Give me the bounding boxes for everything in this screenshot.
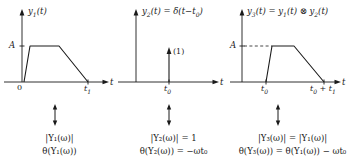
figure-column-3: y3(t) = y1(t) ⊗ y2(t) A t0 t0 + t1 t |Y₃…: [228, 0, 347, 168]
x-axis-arrowhead: [103, 80, 110, 85]
y-axis-arrowhead: [134, 9, 139, 16]
phase-equation-2: θ(Y₂(ω)) = −ωt₀: [114, 147, 233, 156]
plot-y1: y1(t) A 0 t1 t: [0, 0, 119, 100]
connector-arrow-2-svg: [114, 104, 233, 126]
x-tick-label-t0-plus-t1: t0 + t1: [310, 84, 336, 95]
y-axis-tick-label-A: A: [9, 40, 15, 50]
plot-y3: y3(t) = y1(t) ⊗ y2(t) A t0 t0 + t1 t: [228, 0, 347, 100]
magnitude-equation-2-text: |Y₂(ω)| = 1: [150, 133, 196, 143]
connector-arrow-2: [114, 104, 233, 126]
phase-equation-1-text: θ(Y₁(ω)): [42, 146, 76, 156]
figure-column-2: y2(t) = δ(t−t0) (1) t0 t |Y₂(ω)| = 1 θ(Y…: [114, 0, 233, 168]
magnitude-equation-3: |Y₃(ω)| = |Y₁(ω)|: [228, 126, 357, 145]
waveform-trapezoid-shifted: [266, 46, 324, 82]
figure-column-1: y1(t) A 0 t1 t |Y₁(ω)| θ(Y₁(ω)): [0, 0, 119, 168]
phase-equation-3-text: θ(Y₃(ω)) = θ(Y₁(ω)) − ωt₀: [239, 146, 346, 156]
connector-arrow-1: [0, 104, 119, 126]
x-tick-label-t1: t1: [84, 84, 91, 95]
y-axis-tick-label-A: A: [230, 40, 236, 50]
magnitude-equation-1-text: |Y₁(ω)|: [45, 133, 73, 143]
connector-arrow-3: [228, 104, 347, 126]
x-axis-label: t: [342, 77, 345, 87]
connector-arrow-3-svg: [228, 104, 347, 126]
waveform-trapezoid: [24, 46, 88, 82]
figure-canvas: y1(t) A 0 t1 t |Y₁(ω)| θ(Y₁(ω)): [0, 0, 357, 168]
y-axis-arrowhead: [240, 9, 245, 16]
plot-y3-title: y3(t) = y1(t) ⊗ y2(t): [247, 6, 328, 18]
magnitude-equation-3-text: |Y₃(ω)| = |Y₁(ω)|: [258, 133, 327, 143]
phase-equation-1: θ(Y₁(ω)): [0, 147, 119, 156]
origin-label: 0: [17, 83, 22, 92]
impulse-weight-label: (1): [173, 47, 184, 56]
x-axis-label: t: [110, 77, 113, 87]
x-tick-label-t0: t0: [164, 84, 171, 95]
phase-equation-3: θ(Y₃(ω)) = θ(Y₁(ω)) − ωt₀: [228, 147, 357, 156]
plot-y1-title: y1(t): [28, 6, 47, 18]
connector-arrow-1-svg: [0, 104, 119, 126]
x-axis-arrowhead: [213, 80, 220, 85]
phase-equation-2-text: θ(Y₂(ω)) = −ωt₀: [140, 146, 208, 156]
x-axis-label: t: [220, 77, 223, 87]
plot-y2-title: y2(t) = δ(t−t0): [142, 6, 203, 18]
y-axis-arrowhead: [20, 9, 25, 16]
magnitude-equation-2: |Y₂(ω)| = 1: [114, 126, 233, 145]
magnitude-equation-1: |Y₁(ω)|: [0, 126, 119, 145]
impulse-arrowhead: [167, 47, 172, 54]
x-tick-label-t0: t0: [261, 84, 268, 95]
plot-y2: y2(t) = δ(t−t0) (1) t0 t: [114, 0, 233, 100]
